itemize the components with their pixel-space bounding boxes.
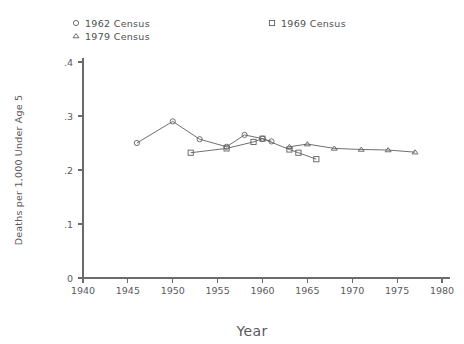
y-axis-title: Deaths per 1,000 Under Age 5: [13, 95, 24, 246]
y-tick-label: .2: [64, 165, 73, 176]
x-tick-label: 1975: [385, 285, 409, 296]
x-tick-label: 1965: [295, 285, 319, 296]
x-tick-label: 1945: [116, 285, 140, 296]
x-tick-label: 1960: [250, 285, 274, 296]
data-series-group: [134, 119, 418, 162]
line-chart-plot: 1962 Census1979 Census1969 Census 0.1.2.…: [0, 0, 464, 344]
x-tick-label: 1940: [71, 285, 95, 296]
y-tick-label: .3: [64, 111, 73, 122]
y-axis-ticks: 0.1.2.3.4: [64, 57, 83, 284]
triangle-marker: [73, 34, 79, 38]
y-tick-label: 0: [67, 273, 73, 284]
y-tick-label: .1: [64, 219, 73, 230]
x-tick-label: 1980: [430, 285, 454, 296]
x-tick-label: 1955: [206, 285, 230, 296]
x-tick-label: 1950: [161, 285, 185, 296]
series-2: [188, 136, 319, 162]
x-axis-ticks: 194019451950195519601965197019751980: [71, 278, 454, 296]
series-3: [286, 142, 418, 154]
legend-entry: 1969 Census: [269, 18, 346, 29]
x-tick-label: 1970: [340, 285, 364, 296]
legend-entry: 1979 Census: [73, 31, 150, 42]
series-line-triangle: [289, 144, 415, 152]
chart-legend: 1962 Census1979 Census1969 Census: [73, 18, 346, 42]
axes-group: [83, 58, 450, 278]
circle-marker: [73, 20, 78, 25]
legend-label: 1962 Census: [85, 18, 150, 29]
chart-container: 1962 Census1979 Census1969 Census 0.1.2.…: [0, 0, 464, 344]
data-point-square: [314, 157, 319, 162]
legend-label: 1969 Census: [281, 18, 346, 29]
square-marker: [269, 20, 274, 25]
y-tick-label: .4: [64, 57, 73, 68]
legend-entry: 1962 Census: [73, 18, 150, 29]
x-axis-title: Year: [235, 323, 267, 339]
legend-label: 1979 Census: [85, 31, 150, 42]
